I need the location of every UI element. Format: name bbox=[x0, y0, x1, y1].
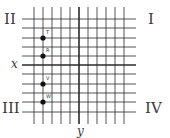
quadrant-label-ii: II bbox=[4, 12, 16, 27]
coordinate-grid-diagram: II I III IV x y T R V W bbox=[0, 0, 170, 138]
point-t bbox=[40, 35, 45, 40]
point-label-v: V bbox=[46, 76, 49, 81]
point-label-r: R bbox=[46, 48, 49, 53]
point-r bbox=[40, 53, 45, 58]
point-w bbox=[40, 99, 45, 104]
point-label-t: T bbox=[46, 30, 49, 35]
y-axis-label: y bbox=[77, 125, 84, 137]
x-axis-label: x bbox=[11, 58, 18, 70]
quadrant-label-iv: IV bbox=[145, 101, 162, 116]
grid bbox=[0, 0, 170, 138]
quadrant-label-i: I bbox=[148, 12, 154, 27]
point-v bbox=[40, 81, 45, 86]
point-label-w: W bbox=[46, 94, 51, 99]
quadrant-label-iii: III bbox=[2, 101, 20, 116]
